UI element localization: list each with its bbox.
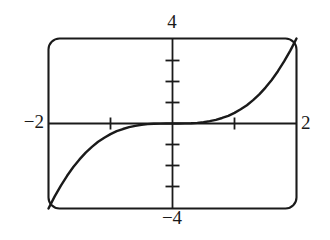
axis-label-x-min: −2 (8, 112, 44, 131)
graph-figure: 4 −4 −2 2 (0, 0, 330, 240)
plot-canvas (0, 0, 330, 240)
axis-label-y-max: 4 (155, 12, 189, 31)
axis-label-y-min: −4 (150, 208, 194, 227)
axis-label-x-max: 2 (301, 113, 321, 132)
